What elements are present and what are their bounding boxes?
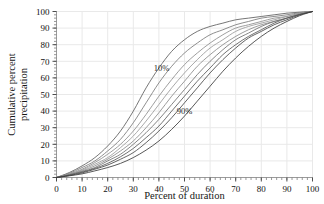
y-tick-label: 30 xyxy=(41,123,51,133)
x-tick-label: 90 xyxy=(282,184,292,194)
minor-ticks-layer xyxy=(54,12,313,181)
major-ticks-layer xyxy=(53,12,313,182)
y-tick-label: 10 xyxy=(41,156,51,166)
y-tick-label: 100 xyxy=(36,7,50,17)
y-tick-label: 70 xyxy=(41,57,51,67)
tick-labels-layer: 0102030405060708090100010203040506070809… xyxy=(36,7,320,194)
chart-container: 0102030405060708090100010203040506070809… xyxy=(0,0,324,204)
x-tick-label: 20 xyxy=(103,184,113,194)
y-tick-label: 50 xyxy=(41,90,51,100)
annotation-90pct: 90% xyxy=(177,106,193,116)
y-tick-label: 40 xyxy=(41,106,51,116)
x-tick-label: 100 xyxy=(306,184,320,194)
y-tick-label: 0 xyxy=(45,173,50,183)
x-tick-label: 30 xyxy=(129,184,139,194)
x-tick-label: 70 xyxy=(231,184,241,194)
annotation-10pct: 10% xyxy=(154,63,170,73)
y-tick-label: 60 xyxy=(41,73,51,83)
y-axis-title-line: Cumulative percent xyxy=(6,53,17,136)
y-tick-label: 90 xyxy=(41,23,51,33)
y-tick-label: 80 xyxy=(41,40,51,50)
cumulative-precipitation-chart: 0102030405060708090100010203040506070809… xyxy=(0,0,324,204)
x-tick-label: 0 xyxy=(54,184,59,194)
axis-titles-layer: Percent of durationCumulative percentpre… xyxy=(6,53,225,201)
y-axis-title-line: precipitation xyxy=(18,67,29,121)
x-tick-label: 80 xyxy=(257,184,267,194)
grid-layer xyxy=(57,12,313,178)
x-tick-label: 10 xyxy=(78,184,88,194)
x-axis-title: Percent of duration xyxy=(144,190,225,201)
y-tick-label: 20 xyxy=(41,140,51,150)
